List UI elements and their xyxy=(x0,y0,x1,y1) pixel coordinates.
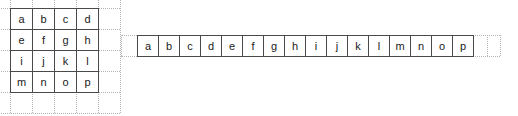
matrix-cell: a xyxy=(10,8,33,30)
matrix-cell: p xyxy=(76,71,99,93)
matrix-cell: k xyxy=(54,50,77,72)
array-cell: f xyxy=(242,35,264,57)
array-cell: j xyxy=(326,35,348,57)
matrix-cell: l xyxy=(76,50,99,72)
array-cell: k xyxy=(347,35,369,57)
array-cell: l xyxy=(368,35,390,57)
array-cell: i xyxy=(305,35,327,57)
array-guide-line-trail-divider xyxy=(487,35,488,56)
array-cell: d xyxy=(200,35,222,57)
matrix-cell: j xyxy=(32,50,55,72)
matrix-cell: f xyxy=(32,29,55,51)
array-cell: p xyxy=(452,35,474,57)
matrix-cell: c xyxy=(54,8,77,30)
matrix-guide-line-horizontal xyxy=(0,113,120,114)
matrix-cell: d xyxy=(76,8,99,30)
matrix-figure: abcdefghijklmnop xyxy=(0,0,130,116)
array-guide-line-left-cap xyxy=(121,35,122,56)
array-cell: o xyxy=(431,35,453,57)
array-cell: m xyxy=(389,35,411,57)
matrix-cell: o xyxy=(54,71,77,93)
matrix-cell: h xyxy=(76,29,99,51)
array-cell: g xyxy=(263,35,285,57)
matrix-cell: b xyxy=(32,8,55,30)
matrix-cell: i xyxy=(10,50,33,72)
matrix-cell: m xyxy=(10,71,33,93)
array-guide-line-bottom-lead xyxy=(121,56,137,57)
matrix-cell: n xyxy=(32,71,55,93)
array-cell: c xyxy=(179,35,201,57)
array-cell: h xyxy=(284,35,306,57)
matrix-cell: e xyxy=(10,29,33,51)
array-guide-line-right-cap xyxy=(500,35,501,56)
matrix-cell: g xyxy=(54,29,77,51)
array-guide-line-bottom-trail xyxy=(473,56,500,57)
array-cell: n xyxy=(410,35,432,57)
array-cell: b xyxy=(158,35,180,57)
array-figure: abcdefghijklmnop xyxy=(118,0,518,116)
array-cell: e xyxy=(221,35,243,57)
array-guide-line-top-lead xyxy=(121,35,137,36)
array-cell: a xyxy=(137,35,159,57)
